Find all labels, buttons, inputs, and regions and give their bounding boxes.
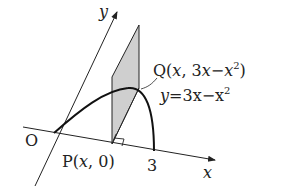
cross-section-triangle xyxy=(112,25,139,144)
origin-label: O xyxy=(25,131,38,150)
diagram-canvas: y x O 3 P(x, 0) Q(x, 3x−x2) y=3x−x2 xyxy=(0,0,290,188)
x-axis-label: x xyxy=(203,163,212,182)
p-label: P(x, 0) xyxy=(62,152,115,171)
parabola-curve xyxy=(54,88,154,151)
q-label: Q(x, 3x−x2) xyxy=(153,60,246,80)
x-axis xyxy=(23,127,215,160)
y-axis-label: y xyxy=(98,2,109,21)
right-angle-marker xyxy=(114,138,124,146)
three-label: 3 xyxy=(147,156,157,175)
curve-equation: y=3x−x2 xyxy=(159,85,230,105)
